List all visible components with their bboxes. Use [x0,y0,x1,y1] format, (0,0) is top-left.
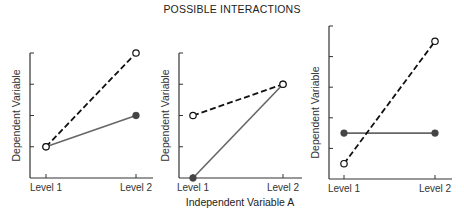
open-circle-marker [341,161,347,167]
y-axis-label: Dependent Variable [159,69,171,161]
panel-1: Level 1Level 2Dependent Variable [10,50,153,193]
dashed-series-line [193,84,283,115]
panel-2: Level 1Level 2Dependent Variable [159,53,302,193]
open-circle-marker [43,144,49,150]
y-axis-label: Dependent Variable [309,66,321,158]
open-circle-marker [280,81,286,87]
solid-series-line [46,116,136,147]
open-circle-marker [133,50,139,56]
y-axis-label: Dependent Variable [10,69,22,161]
dashed-series-line [344,41,435,163]
panel-3: Level 1Level 2Dependent Variable [309,26,452,194]
x-tick-label: Level 2 [267,182,300,193]
interaction-plots: Level 1Level 2Dependent VariableLevel 1L… [0,0,464,213]
filled-circle-marker [341,130,348,137]
open-circle-marker [432,38,438,44]
x-tick-label: Level 1 [30,182,63,193]
filled-circle-marker [432,130,439,137]
filled-circle-marker [190,175,197,182]
x-tick-label: Level 2 [120,182,153,193]
open-circle-marker [190,112,196,118]
x-tick-label: Level 2 [419,183,452,194]
x-tick-label: Level 1 [328,183,361,194]
x-axis-title: Independent Variable A [150,196,330,208]
solid-series-line [193,84,283,178]
x-tick-label: Level 1 [177,182,210,193]
dashed-series-line [46,53,136,147]
filled-circle-marker [133,112,140,119]
